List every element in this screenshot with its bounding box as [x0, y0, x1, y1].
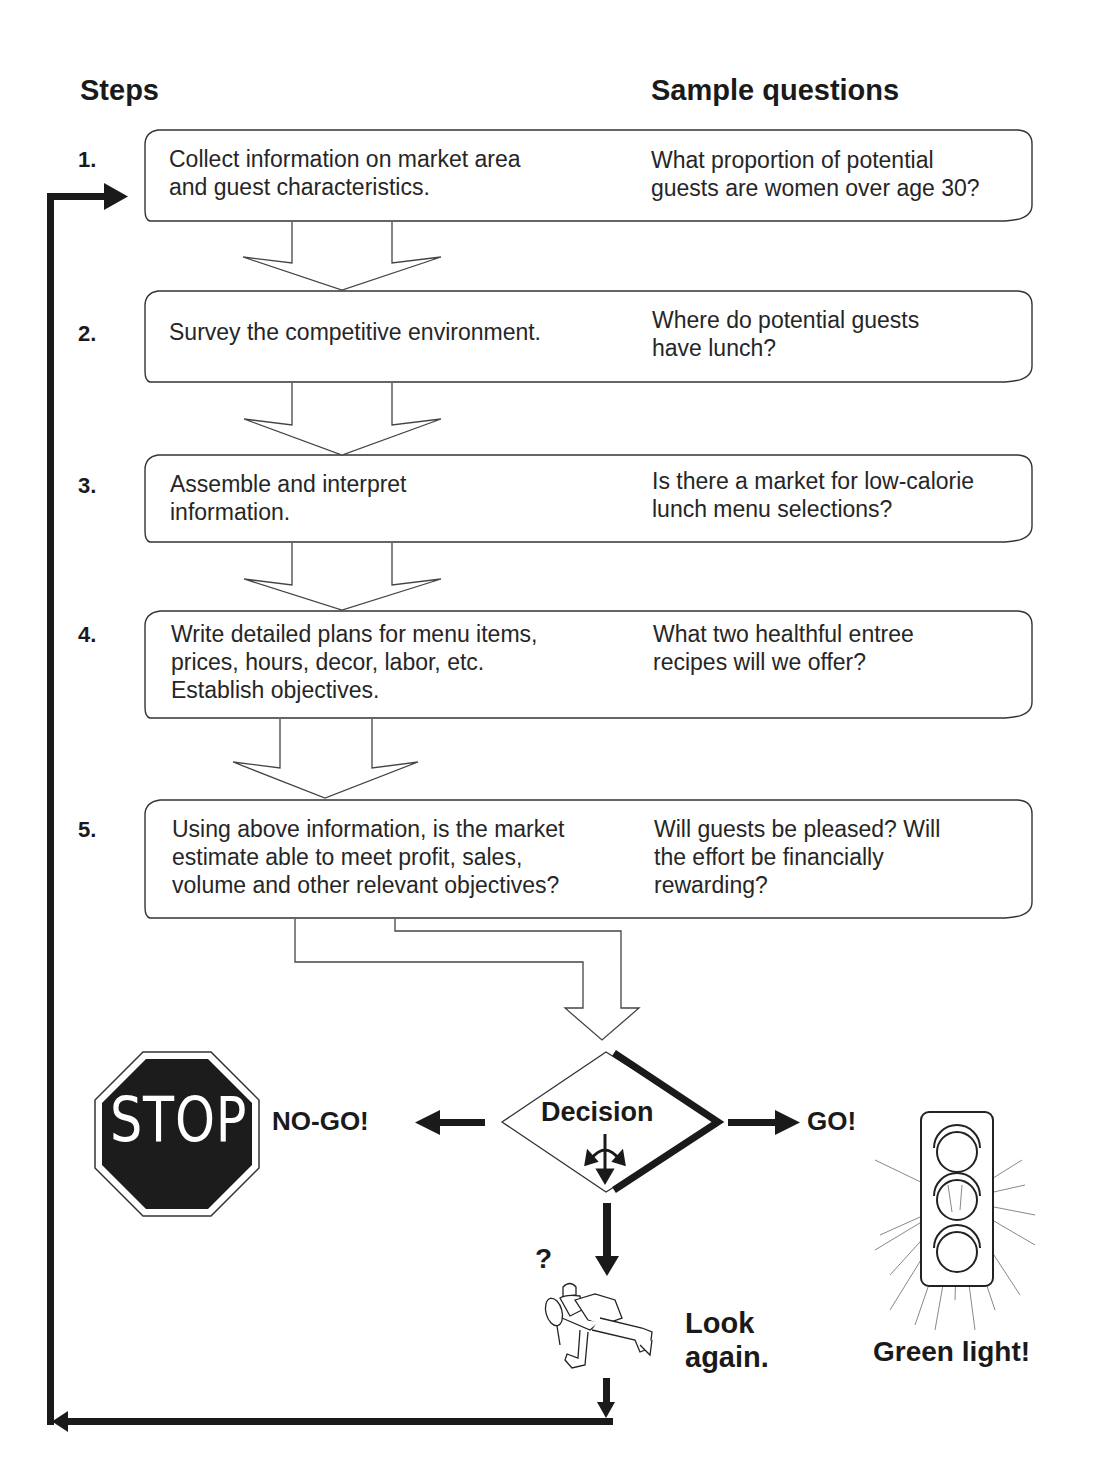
no-go-arrow: [415, 1110, 485, 1135]
step-number-3: 3.: [78, 473, 96, 499]
stop-sign-text: STOP: [110, 1083, 247, 1156]
traffic-light-icon: [875, 1112, 1035, 1330]
go-arrow: [728, 1110, 800, 1135]
question-text-4: What two healthful entree recipes will w…: [653, 620, 914, 676]
step-text-4: Write detailed plans for menu items, pri…: [171, 620, 537, 704]
question-mark: ?: [535, 1243, 552, 1275]
flow-arrow-2-3: [244, 383, 441, 455]
step-number-1: 1.: [78, 147, 96, 173]
step-number-2: 2.: [78, 321, 96, 347]
flow-arrow-3-4: [244, 543, 441, 610]
question-text-3: Is there a market for low-calorie lunch …: [652, 467, 974, 523]
flow-arrow-5-decision: [295, 919, 639, 1040]
sample-questions-header: Sample questions: [651, 74, 899, 107]
look-again-label-line2: again.: [685, 1341, 769, 1374]
green-light-label: Green light!: [873, 1336, 1030, 1368]
decision-label: Decision: [541, 1097, 654, 1128]
steps-header: Steps: [80, 74, 159, 107]
step-text-3: Assemble and interpret information.: [170, 470, 407, 526]
step-text-1: Collect information on market area and g…: [169, 145, 521, 201]
question-text-1: What proportion of potential guests are …: [651, 146, 980, 202]
no-go-label: NO-GO!: [272, 1106, 369, 1137]
step-text-2: Survey the competitive environment.: [169, 318, 541, 346]
detective-magnifier-icon: [543, 1284, 652, 1369]
step-number-4: 4.: [78, 622, 96, 648]
look-again-label-line1: Look: [685, 1307, 754, 1340]
go-label: GO!: [807, 1106, 856, 1137]
question-text-2: Where do potential guests have lunch?: [652, 306, 919, 362]
look-again-arrow: [595, 1203, 619, 1276]
flow-arrow-1-2: [243, 222, 441, 290]
step-text-5: Using above information, is the market e…: [172, 815, 564, 899]
step-number-5: 5.: [78, 817, 96, 843]
flow-arrow-4-5: [233, 719, 418, 798]
question-text-5: Will guests be pleased? Will the effort …: [654, 815, 940, 899]
